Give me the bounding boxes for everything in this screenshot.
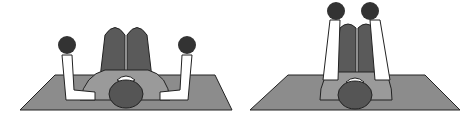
left-dumbbell (327, 2, 345, 20)
head (338, 81, 372, 109)
left-arm (323, 20, 340, 80)
right-dumbbell (361, 2, 379, 20)
panel-end-position (0, 0, 476, 120)
exercise-illustration (0, 0, 476, 120)
